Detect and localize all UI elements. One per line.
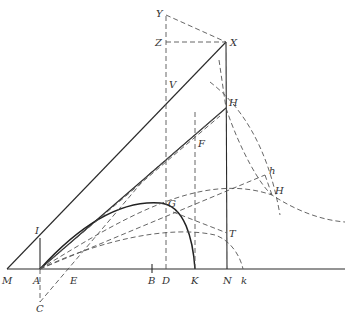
label-C: C (36, 303, 44, 314)
label-N: N (222, 275, 233, 286)
label-h: h (269, 165, 275, 176)
label-I: I (34, 225, 40, 236)
label-X: X (229, 37, 238, 48)
label-A: A (32, 275, 40, 286)
dashed-A-H-parallel (40, 116, 220, 269)
line-XN (226, 42, 227, 269)
label-H: H (228, 97, 238, 108)
dashed-h-H (265, 175, 272, 195)
label-M: M (1, 275, 13, 286)
label-Y: Y (156, 8, 164, 19)
dashed-arc-H (210, 82, 280, 215)
label-B: B (147, 275, 155, 286)
dashed-X-down (219, 60, 226, 108)
label-F: F (197, 138, 206, 149)
dashed-curve-A-right (40, 188, 272, 269)
label-V: V (169, 79, 178, 90)
dashed-GT (173, 212, 227, 233)
geometry-diagram: M A E B D K N k I C Y Z X V H F G T h H (0, 0, 348, 315)
label-Z: Z (154, 37, 163, 48)
dashed-YX (166, 15, 226, 42)
dashed-hyperbola (226, 108, 345, 222)
dashed-C-up (40, 175, 148, 302)
line-MX (7, 42, 226, 269)
label-T: T (229, 228, 237, 239)
label-K: K (190, 275, 199, 286)
label-H2: H (274, 185, 284, 196)
label-D: D (161, 275, 170, 286)
label-E: E (69, 275, 78, 286)
label-G: G (168, 198, 176, 209)
label-k: k (241, 275, 247, 286)
